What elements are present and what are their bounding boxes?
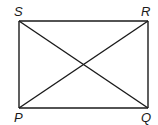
vertex-label-S: S: [14, 4, 23, 19]
vertex-label-P: P: [14, 110, 23, 125]
rectangle-diagram: S R P Q: [0, 0, 158, 125]
vertex-label-Q: Q: [141, 110, 151, 125]
vertex-label-R: R: [141, 4, 150, 19]
